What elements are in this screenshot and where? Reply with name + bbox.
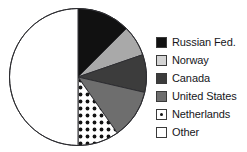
legend-swatch-russian-fed-icon	[156, 37, 167, 48]
pie-chart-plot-area	[0, 0, 160, 152]
pie-chart-svg	[0, 0, 160, 152]
legend-item-netherlands[interactable]: Netherlands	[156, 105, 247, 123]
legend-label-united-states: United States	[172, 90, 237, 102]
legend-label-norway: Norway	[172, 54, 209, 66]
legend-swatch-norway-icon	[156, 55, 167, 66]
legend-swatch-canada-icon	[156, 73, 167, 84]
pie-chart-figure: Russian Fed. Norway Canada United States…	[0, 0, 247, 152]
legend-item-norway[interactable]: Norway	[156, 51, 247, 69]
legend-swatch-netherlands-icon	[156, 109, 167, 120]
legend-item-other[interactable]: Other	[156, 123, 247, 141]
pie-slice-group	[10, 9, 147, 146]
pie-slice-other[interactable]	[10, 9, 79, 146]
legend-item-united-states[interactable]: United States	[156, 87, 247, 105]
chart-legend: Russian Fed. Norway Canada United States…	[156, 33, 247, 141]
legend-swatch-other-icon	[156, 127, 167, 138]
legend-swatch-united-states-icon	[156, 91, 167, 102]
legend-label-canada: Canada	[172, 72, 210, 84]
legend-label-russian-fed: Russian Fed.	[172, 36, 236, 48]
legend-label-other: Other	[172, 126, 199, 138]
legend-label-netherlands: Netherlands	[172, 108, 230, 120]
legend-item-russian-fed[interactable]: Russian Fed.	[156, 33, 247, 51]
legend-item-canada[interactable]: Canada	[156, 69, 247, 87]
